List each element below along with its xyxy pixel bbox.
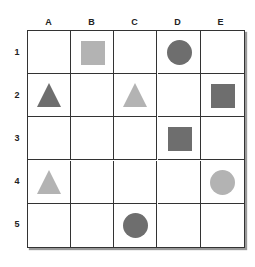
cell-b2 (71, 74, 114, 117)
cell-d2 (158, 74, 201, 117)
column-label-c: C (113, 17, 156, 27)
cell-e3 (201, 117, 244, 160)
cell-b1 (71, 31, 114, 74)
dark-triangle-icon (37, 83, 61, 107)
cell-a5 (28, 204, 71, 247)
light-triangle-icon (37, 170, 61, 194)
column-label-a: A (27, 17, 70, 27)
cell-d1 (158, 31, 201, 74)
dark-circle-icon (167, 40, 192, 65)
dark-circle-icon (123, 213, 148, 238)
cell-d4 (158, 161, 201, 204)
cell-c1 (114, 31, 157, 74)
row-label-1: 1 (10, 47, 24, 57)
cell-b3 (71, 117, 114, 160)
cell-e1 (201, 31, 244, 74)
cell-c4 (114, 161, 157, 204)
column-label-d: D (156, 17, 199, 27)
cell-c5 (114, 204, 157, 247)
column-label-e: E (199, 17, 242, 27)
cell-b5 (71, 204, 114, 247)
row-label-2: 2 (10, 90, 24, 100)
grid-board (27, 30, 245, 248)
cell-d5 (158, 204, 201, 247)
light-circle-icon (210, 170, 235, 195)
cell-d3 (158, 117, 201, 160)
row-label-5: 5 (10, 219, 24, 229)
cell-a1 (28, 31, 71, 74)
cell-e4 (201, 161, 244, 204)
cell-b4 (71, 161, 114, 204)
cell-a2 (28, 74, 71, 117)
cell-e2 (201, 74, 244, 117)
row-label-4: 4 (10, 176, 24, 186)
row-label-3: 3 (10, 133, 24, 143)
cell-c2 (114, 74, 157, 117)
light-triangle-icon (123, 83, 147, 107)
column-label-b: B (70, 17, 113, 27)
cell-a4 (28, 161, 71, 204)
dark-square-icon (211, 84, 235, 108)
cell-e5 (201, 204, 244, 247)
dark-square-icon (168, 127, 192, 151)
light-square-icon (81, 41, 105, 65)
cell-c3 (114, 117, 157, 160)
cell-a3 (28, 117, 71, 160)
